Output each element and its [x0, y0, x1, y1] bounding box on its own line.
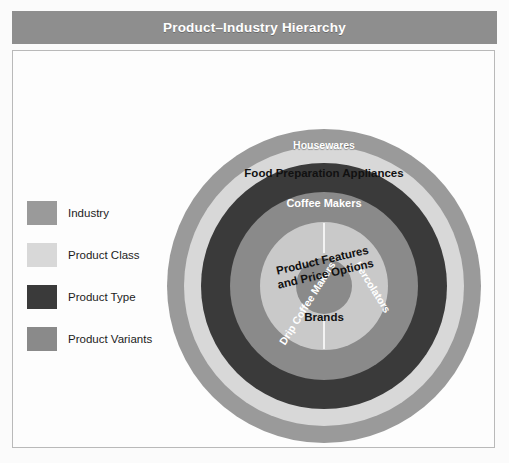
page-root: Product–Industry Hierarchy Industry Prod…	[0, 0, 509, 463]
legend-label-product-variants: Product Variants	[68, 333, 152, 345]
legend-swatch-industry	[27, 201, 57, 225]
ring-label-brands: Brands	[304, 311, 344, 323]
legend-swatch-product-class	[27, 243, 57, 267]
content-panel: Industry Product Class Product Type Prod…	[12, 50, 495, 448]
legend-swatch-product-variants	[27, 327, 57, 351]
legend-item-product-type: Product Type	[27, 282, 167, 312]
variant-divider-bottom	[323, 319, 325, 349]
legend: Industry Product Class Product Type Prod…	[27, 198, 167, 366]
legend-label-product-type: Product Type	[68, 291, 136, 303]
legend-item-industry: Industry	[27, 198, 167, 228]
legend-label-industry: Industry	[68, 207, 109, 219]
legend-item-product-class: Product Class	[27, 240, 167, 270]
page-title: Product–Industry Hierarchy	[163, 20, 346, 35]
title-bar: Product–Industry Hierarchy	[12, 11, 497, 44]
legend-item-product-variants: Product Variants	[27, 324, 167, 354]
legend-swatch-product-type	[27, 285, 57, 309]
variant-divider-top	[323, 223, 325, 253]
product-industry-hierarchy-diagram: Housewares Food Preparation Appliances C…	[167, 129, 481, 443]
legend-label-product-class: Product Class	[68, 249, 140, 261]
